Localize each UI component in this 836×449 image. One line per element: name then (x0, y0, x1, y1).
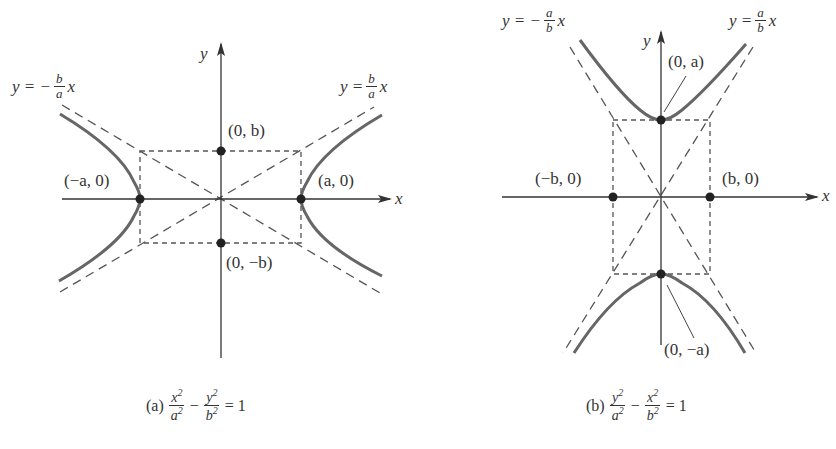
exponent: 2 (654, 405, 659, 416)
asymptote-pos-label: y = b a x (340, 72, 387, 100)
asymptote-prefix: y = (729, 12, 752, 29)
point-label-left: (−a, 0) (64, 172, 109, 189)
vertex-right (297, 195, 306, 204)
figure-b (502, 32, 817, 353)
point-label-top: (0, a) (668, 53, 704, 70)
point-label-right: (b, 0) (722, 170, 759, 187)
asymptote-neg-label: y = − b a x (12, 72, 75, 100)
point-label-top: (0, b) (228, 122, 265, 139)
caption-tag: (b) (586, 397, 605, 415)
point-label-bottom: (0, −b) (226, 254, 272, 271)
exponent: 2 (619, 405, 624, 416)
fraction-denominator: a (366, 87, 377, 101)
exponent: 2 (653, 387, 658, 398)
term-denominator: b (647, 408, 654, 423)
point-label-right: (a, 0) (318, 172, 354, 189)
exponent: 2 (212, 387, 217, 398)
asymptote-prefix: y = (340, 78, 363, 95)
exponent: 2 (177, 387, 182, 398)
caption-term1: x2 a2 (169, 388, 185, 424)
asymptote-positive (563, 47, 753, 353)
slope-fraction: b a (54, 72, 65, 100)
fraction-numerator: b (366, 72, 377, 87)
caption-operator: − (190, 397, 199, 415)
hyperbola-branch-top (580, 40, 746, 120)
exponent: 2 (618, 387, 623, 398)
caption-b: (b) y2 a2 − x2 b2 = 1 (586, 388, 687, 424)
caption-operator: − (631, 397, 640, 415)
asymptote-prefix: y = − (502, 12, 541, 29)
slope-fraction: b a (366, 72, 377, 100)
caption-tag: (a) (146, 397, 164, 415)
caption-rhs: = 1 (666, 397, 687, 415)
hyperbola-diagrams (0, 0, 836, 449)
y-axis-label: y (200, 45, 208, 62)
caption-term2: x2 b2 (645, 388, 661, 424)
slope-fraction: a b (755, 6, 766, 34)
asymptote-suffix: x (558, 12, 566, 29)
vertex-left (136, 195, 145, 204)
leader-top (664, 76, 686, 112)
covertex-left (609, 193, 618, 202)
asymptote-suffix: x (769, 12, 777, 29)
asymptote-negative (570, 47, 756, 353)
y-axis-label: y (643, 32, 651, 49)
covertex-right (706, 193, 715, 202)
hyperbola-branch-right (301, 115, 382, 276)
hyperbola-branch-left (59, 114, 140, 281)
term-denominator: b (206, 408, 213, 423)
covertex-bottom (217, 239, 226, 248)
point-label-left: (−b, 0) (535, 170, 581, 187)
term-denominator: a (171, 408, 178, 423)
leader-bottom (667, 285, 694, 338)
slope-fraction: a b (544, 6, 555, 34)
asymptote-neg-label: y = − a b x (502, 6, 565, 34)
vertex-top (657, 116, 666, 125)
caption-rhs: = 1 (225, 397, 246, 415)
fraction-numerator: b (54, 72, 65, 87)
fraction-numerator: a (755, 6, 766, 21)
asymptote-pos-label: y = a b x (729, 6, 776, 34)
caption-term1: y2 a2 (610, 388, 626, 424)
exponent: 2 (213, 405, 218, 416)
x-axis-label: x (822, 187, 830, 204)
caption-term2: y2 b2 (204, 388, 220, 424)
asymptote-prefix: y = − (12, 78, 51, 95)
x-axis-label: x (395, 190, 403, 207)
asymptote-suffix: x (380, 78, 388, 95)
fraction-numerator: a (544, 6, 555, 21)
fraction-denominator: b (544, 21, 555, 35)
hyperbola-branch-bottom (574, 274, 745, 353)
vertex-bottom (657, 270, 666, 279)
exponent: 2 (178, 405, 183, 416)
caption-a: (a) x2 a2 − y2 b2 = 1 (146, 388, 246, 424)
term-denominator: a (612, 408, 619, 423)
point-label-bottom: (0, −a) (664, 341, 709, 358)
asymptote-suffix: x (68, 78, 76, 95)
covertex-top (217, 147, 226, 156)
fraction-denominator: b (755, 21, 766, 35)
fraction-denominator: a (54, 87, 65, 101)
